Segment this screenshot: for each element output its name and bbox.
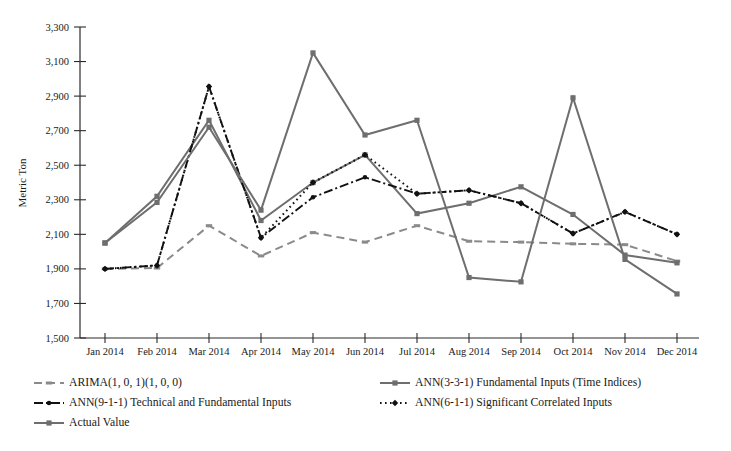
x-tick-label: Jan 2014 xyxy=(86,346,124,357)
data-point-marker xyxy=(622,209,628,215)
x-tick-label: Nov 2014 xyxy=(604,346,646,357)
legend-swatch xyxy=(380,380,410,385)
x-tick-label: Apr 2014 xyxy=(241,346,282,357)
data-point-marker xyxy=(363,175,368,180)
x-tick-label: Jun 2014 xyxy=(346,346,385,357)
data-point-marker xyxy=(362,132,367,137)
x-tick-label: Aug 2014 xyxy=(448,346,490,357)
series-line xyxy=(105,53,677,294)
data-point-marker xyxy=(518,184,523,189)
legend-swatch xyxy=(380,400,410,406)
data-point-marker xyxy=(47,401,52,406)
data-point-marker xyxy=(258,208,263,213)
data-point-marker xyxy=(310,231,316,234)
x-axis: Jan 2014Feb 2014Mar 2014Apr 2014May 2014… xyxy=(80,333,699,357)
legend-item[interactable]: ANN(3-3-1) Fundamental Inputs (Time Indi… xyxy=(380,376,641,389)
data-point-marker xyxy=(622,243,628,246)
data-point-marker xyxy=(466,187,472,193)
data-point-marker xyxy=(258,254,264,257)
x-tick-label: Oct 2014 xyxy=(554,346,594,357)
data-point-marker xyxy=(414,118,419,123)
data-point-marker xyxy=(674,291,679,296)
data-point-marker xyxy=(311,195,316,200)
data-point-marker xyxy=(570,212,575,217)
data-point-marker xyxy=(414,191,420,197)
x-tick-label: Mar 2014 xyxy=(188,346,230,357)
x-tick-label: Jul 2014 xyxy=(399,346,436,357)
data-point-marker xyxy=(518,241,524,244)
y-tick-label: 2,500 xyxy=(45,160,69,171)
series-line xyxy=(105,226,677,269)
legend-item[interactable]: ANN(6-1-1) Significant Correlated Inputs xyxy=(380,396,612,409)
y-tick-label: 1,500 xyxy=(45,333,69,344)
legend-label: ANN(9-1-1) Technical and Fundamental Inp… xyxy=(69,396,292,409)
data-point-marker xyxy=(206,118,211,123)
data-point-marker xyxy=(414,211,419,216)
y-tick-label: 3,300 xyxy=(45,22,69,33)
y-tick-label: 1,700 xyxy=(45,298,69,309)
y-axis: 1,5001,7001,9002,1002,3002,5002,7002,900… xyxy=(45,22,86,344)
data-point-marker xyxy=(206,125,211,130)
legend-swatch xyxy=(34,382,64,385)
data-point-marker xyxy=(392,380,397,385)
chart-legend: ARIMA(1, 0, 1)(1, 0, 0)ANN(3-3-1) Fundam… xyxy=(34,376,641,429)
data-point-marker xyxy=(46,420,51,425)
data-point-marker xyxy=(392,400,398,406)
y-tick-label: 2,100 xyxy=(45,229,69,240)
data-point-marker xyxy=(258,218,263,223)
data-point-marker xyxy=(674,260,679,265)
legend-label: ARIMA(1, 0, 1)(1, 0, 0) xyxy=(69,376,182,389)
legend-item[interactable]: ARIMA(1, 0, 1)(1, 0, 0) xyxy=(34,376,182,389)
y-tick-label: 1,900 xyxy=(45,263,69,274)
y-tick-label: 2,900 xyxy=(45,91,69,102)
data-point-marker xyxy=(414,224,420,227)
data-point-marker xyxy=(154,200,159,205)
data-point-marker xyxy=(570,95,575,100)
data-point-marker xyxy=(570,242,576,245)
x-tick-label: Dec 2014 xyxy=(657,346,698,357)
y-tick-label: 2,700 xyxy=(45,125,69,136)
data-point-marker xyxy=(46,382,52,385)
series-layer xyxy=(102,50,680,296)
line-chart: 1,5001,7001,9002,1002,3002,5002,7002,900… xyxy=(0,0,731,451)
data-point-marker xyxy=(102,240,107,245)
series-4 xyxy=(102,50,679,296)
legend-label: Actual Value xyxy=(69,416,129,429)
data-point-marker xyxy=(466,275,471,280)
legend-label: ANN(3-3-1) Fundamental Inputs (Time Indi… xyxy=(415,376,641,389)
y-tick-label: 2,300 xyxy=(45,194,69,205)
legend-item[interactable]: ANN(9-1-1) Technical and Fundamental Inp… xyxy=(34,396,292,409)
chart-container: 1,5001,7001,9002,1002,3002,5002,7002,900… xyxy=(0,0,731,451)
data-point-marker xyxy=(362,241,368,244)
legend-swatch xyxy=(34,401,64,406)
x-tick-label: May 2014 xyxy=(292,346,336,357)
legend-item[interactable]: Actual Value xyxy=(34,416,129,429)
legend-label: ANN(6-1-1) Significant Correlated Inputs xyxy=(415,396,612,409)
legend-swatch xyxy=(34,420,64,425)
data-point-marker xyxy=(206,224,212,227)
x-tick-label: Feb 2014 xyxy=(137,346,177,357)
data-point-marker xyxy=(466,201,471,206)
data-point-marker xyxy=(674,231,680,237)
data-point-marker xyxy=(102,266,108,272)
y-axis-title: Metric Ton xyxy=(16,158,28,207)
x-tick-label: Sep 2014 xyxy=(501,346,541,357)
data-point-marker xyxy=(206,83,212,89)
data-point-marker xyxy=(518,279,523,284)
data-point-marker xyxy=(466,240,472,243)
y-tick-label: 3,100 xyxy=(45,56,69,67)
data-point-marker xyxy=(310,50,315,55)
data-point-marker xyxy=(622,257,627,262)
